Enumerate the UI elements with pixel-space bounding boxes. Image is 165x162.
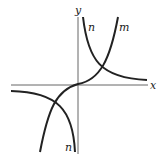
x-axis-label: x [150,79,157,92]
graph: x y n m n [0,0,165,162]
label-m-top: m [119,21,129,34]
y-axis-label: y [74,4,82,17]
label-n-top: n [88,21,95,34]
label-n-bottom: n [65,141,72,154]
